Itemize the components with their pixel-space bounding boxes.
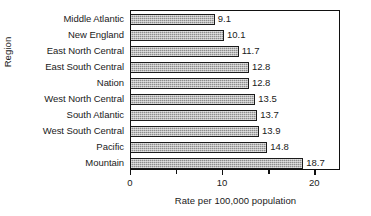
category-label: East South Central [45,60,124,73]
category-label: West South Central [43,124,124,137]
value-label: 12.8 [252,76,271,89]
value-label: 12.8 [252,60,271,73]
x-tick-minor [176,170,177,174]
value-label: 13.7 [260,108,279,121]
x-tick-major [130,170,131,175]
x-tick-label: 0 [110,176,150,189]
category-label: South Atlantic [67,108,124,121]
bar-chart: Region Middle AtlanticNew EnglandEast No… [0,0,371,216]
x-axis-title: Rate per 100,000 population [130,194,341,207]
value-label: 14.8 [270,140,289,153]
category-label: Middle Atlantic [63,12,124,25]
x-tick-label: 20 [294,176,334,189]
value-label: 18.7 [306,156,325,169]
y-axis-title: Region [2,22,14,82]
category-label: New England [68,28,124,41]
category-label: East North Central [47,44,124,57]
value-label: 10.1 [227,28,246,41]
category-label: West North Central [44,92,124,105]
category-label: Pacific [96,140,124,153]
bar-value-labels: 9.110.111.712.812.813.513.713.914.818.7 [130,10,365,170]
category-label: Mountain [85,156,124,169]
x-tick-minor [268,170,269,174]
value-label: 13.9 [262,124,281,137]
y-axis-tick-labels: Middle AtlanticNew EnglandEast North Cen… [14,10,127,170]
x-axis-tick-labels: 01020 [110,176,361,190]
x-tick-label: 10 [202,176,242,189]
category-label: Nation [97,76,124,89]
x-tick-major [314,170,315,175]
value-label: 11.7 [242,44,260,57]
x-tick-major [222,170,223,175]
value-label: 13.5 [258,92,277,105]
value-label: 9.1 [218,12,231,25]
